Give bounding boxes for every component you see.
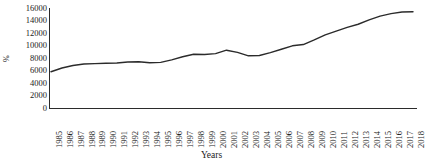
y-axis-title: % xyxy=(2,55,11,62)
data-line-series xyxy=(49,8,417,108)
x-tick-label: 2014 xyxy=(373,131,382,148)
y-tick-label: 16000 xyxy=(26,4,47,13)
x-tick-label: 2000 xyxy=(219,131,228,148)
x-tick-label: 1986 xyxy=(66,131,75,148)
y-tick-label: 6000 xyxy=(30,66,47,75)
x-tick-label: 2003 xyxy=(252,131,261,148)
y-tick-label: 14000 xyxy=(26,16,47,25)
x-tick-label: 1993 xyxy=(142,131,151,148)
x-tick-label: 1996 xyxy=(175,131,184,148)
x-tick-label: 1994 xyxy=(153,131,162,148)
x-tick-label: 2011 xyxy=(340,131,349,148)
x-tick-label: 2001 xyxy=(230,131,239,148)
x-axis-line xyxy=(49,108,417,109)
y-tick-label: 10000 xyxy=(26,41,47,50)
x-tick-label: 2002 xyxy=(241,131,250,148)
x-tick-label: 2016 xyxy=(395,131,404,148)
x-tick-label: 2004 xyxy=(263,131,272,148)
y-tick-label: 8000 xyxy=(30,54,47,63)
x-tick-label: 1997 xyxy=(186,131,195,148)
x-tick-label: 1991 xyxy=(120,131,129,148)
x-tick-label: 2017 xyxy=(406,131,415,148)
x-tick-label: 1998 xyxy=(197,131,206,148)
y-tick-label: 12000 xyxy=(26,29,47,38)
x-tick-label: 2006 xyxy=(285,131,294,148)
y-tick-label: 0 xyxy=(43,104,47,113)
x-tick-label: 1990 xyxy=(109,131,118,148)
x-tick-label: 2013 xyxy=(362,131,371,148)
x-tick-label: 2015 xyxy=(384,131,393,148)
y-tick-label: 2000 xyxy=(30,91,47,100)
x-tick-label: 2010 xyxy=(329,131,338,148)
x-tick-label: 1985 xyxy=(55,131,64,148)
x-tick-label: 2007 xyxy=(296,131,305,148)
plot-area xyxy=(49,8,417,108)
x-tick-label: 1992 xyxy=(131,131,140,148)
x-tick-label: 1988 xyxy=(88,131,97,148)
x-tick-label: 2005 xyxy=(274,131,283,148)
x-tick-label: 2012 xyxy=(351,131,360,148)
series-polyline xyxy=(51,12,413,72)
x-axis-title: Years xyxy=(0,150,423,160)
y-tick-label: 4000 xyxy=(30,79,47,88)
x-tick-label: 1989 xyxy=(98,131,107,148)
x-tick-label: 1995 xyxy=(164,131,173,148)
x-axis-tick-labels: 1985198619871988198919901991199219931994… xyxy=(49,110,417,150)
x-tick-label: 2009 xyxy=(318,131,327,148)
x-tick-label: 1999 xyxy=(208,131,217,148)
x-tick-label: 1987 xyxy=(77,131,86,148)
x-tick-label: 2018 xyxy=(417,131,426,148)
y-axis-tick-labels: 0200040006000800010000120001400016000 xyxy=(14,0,47,165)
x-tick-label: 2008 xyxy=(307,131,316,148)
